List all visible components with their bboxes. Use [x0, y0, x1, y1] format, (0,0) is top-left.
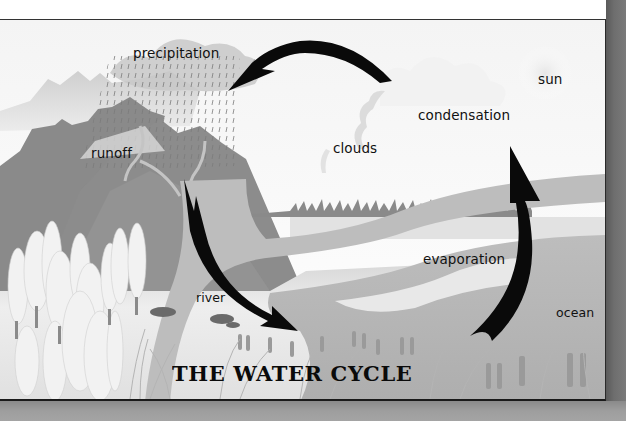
label-sun: sun: [538, 71, 562, 87]
label-precipitation: precipitation: [133, 45, 219, 61]
scene-illustration: [0, 20, 606, 401]
page-right-edge: [606, 0, 626, 421]
page-top-margin: [0, 0, 626, 19]
diagram-title: THE WATER CYCLE: [172, 362, 412, 386]
label-clouds: clouds: [333, 140, 377, 156]
water-cycle-illustration: precipitation sun condensation clouds ru…: [0, 19, 606, 401]
label-evaporation: evaporation: [423, 251, 505, 267]
label-river: river: [196, 290, 225, 305]
label-runoff: runoff: [91, 145, 132, 161]
label-ocean: ocean: [556, 305, 594, 320]
label-condensation: condensation: [418, 107, 510, 123]
page-bottom-edge: [0, 401, 626, 421]
